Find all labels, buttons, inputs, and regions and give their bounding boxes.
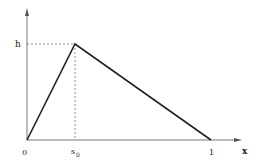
origin-label: 0 [22,148,27,157]
x-axis-arrow-icon [234,138,242,142]
peak-x-label-main: s [71,147,75,156]
peak-y-label: h [15,39,21,49]
peak-x-label-subscript: 0 [76,151,80,158]
x-axis-label: x [242,146,248,156]
y-axis-arrow-icon [25,8,29,16]
end-x-label: 1 [209,148,214,157]
diagram-canvas: h 0 s0 1 x [0,0,260,166]
triangle-function-line [27,44,211,140]
y-axis [25,8,29,140]
peak-x-label: s0 [71,147,80,158]
